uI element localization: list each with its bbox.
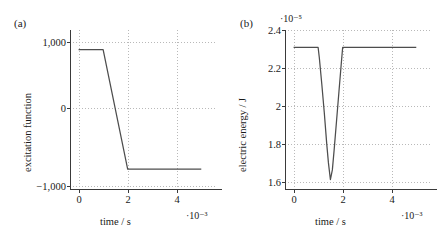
xtick-mark-0 (294, 190, 295, 193)
panel-b-y-axis-label: electric energy / J (237, 98, 248, 172)
panel-b-xtick-label-2: 2 (340, 194, 345, 205)
panel-a-data-line (70, 30, 216, 190)
xtick-mark-2 (128, 190, 129, 193)
panel-a-y-axis-spine (70, 30, 71, 190)
panel-a: (a) 1,000 0 −1,000 0 2 4 t (0, 0, 222, 248)
panel-a-x-exponent: ·10⁻³ (186, 210, 208, 221)
panel-b: (b) 2.4 2.2 2 (222, 0, 444, 248)
ytick-mark-2p4 (282, 30, 285, 31)
panel-b-y-axis-spine (285, 30, 286, 190)
panel-b-ytick-label-1p6: 1.6 (239, 177, 281, 188)
panel-a-y-axis-label: excitation function (22, 93, 33, 172)
ytick-mark-1000 (67, 42, 70, 43)
ytick-mark-1p8 (282, 144, 285, 145)
panel-a-xtick-label-2: 2 (125, 194, 130, 205)
panel-b-ytick-label-2p2: 2.2 (239, 63, 281, 74)
panel-a-label: (a) (14, 17, 26, 29)
panel-a-xtick-label-0: 0 (76, 194, 81, 205)
panel-b-y-exponent: ·10⁻⁵ (280, 13, 302, 24)
ytick-mark-2p2 (282, 68, 285, 69)
panel-a-ytick-label-neg1000: −1,000 (20, 181, 66, 192)
ytick-mark-0 (67, 108, 70, 109)
panel-a-plot-area (70, 30, 216, 190)
panel-b-x-exponent: ·10⁻³ (401, 210, 423, 221)
panel-b-xtick-label-4: 4 (389, 194, 394, 205)
panel-b-data-line (285, 30, 431, 190)
panel-b-x-axis-label: time / s (315, 216, 346, 227)
ytick-mark-1p6 (282, 182, 285, 183)
panel-b-ytick-label-2p4: 2.4 (239, 25, 281, 36)
panel-a-xtick-label-4: 4 (174, 194, 179, 205)
panel-b-xtick-label-0: 0 (291, 194, 296, 205)
xtick-mark-2 (343, 190, 344, 193)
panel-b-x-axis-spine (285, 189, 437, 190)
ytick-mark-2 (282, 106, 285, 107)
figure-two-panel-plot: (a) 1,000 0 −1,000 0 2 4 t (0, 0, 444, 248)
xtick-mark-4 (392, 190, 393, 193)
xtick-mark-0 (79, 190, 80, 193)
ytick-mark-neg1000 (67, 186, 70, 187)
panel-b-plot-area (285, 30, 431, 190)
xtick-mark-4 (177, 190, 178, 193)
panel-a-ytick-label-1000: 1,000 (24, 37, 66, 48)
panel-a-x-axis-label: time / s (100, 216, 131, 227)
panel-a-x-axis-spine (70, 189, 222, 190)
